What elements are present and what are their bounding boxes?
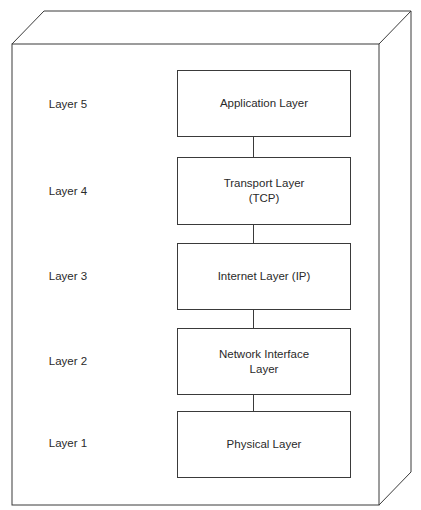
box-side-face [379, 11, 411, 505]
layer-label-2: Layer 2 [40, 354, 96, 368]
connector-3-2 [253, 309, 254, 328]
layer-label-5: Layer 5 [40, 97, 96, 111]
layer-name: Transport Layer [224, 176, 305, 191]
connector-5-4 [253, 136, 254, 157]
transport-layer-box: Transport Layer (TCP) [177, 157, 351, 225]
layer-name: Physical Layer [227, 437, 302, 452]
layer-name-line2: Layer [219, 362, 309, 377]
connector-2-1 [253, 394, 254, 411]
layer-name: Network Interface [219, 347, 309, 362]
network-interface-layer-box: Network Interface Layer [177, 328, 351, 395]
internet-layer-box: Internet Layer (IP) [177, 243, 351, 310]
layer-label-4: Layer 4 [40, 184, 96, 198]
layer-name: Internet Layer (IP) [218, 269, 311, 284]
physical-layer-box: Physical Layer [177, 411, 351, 478]
layer-label-1: Layer 1 [40, 436, 96, 450]
layer-name-line2: (TCP) [224, 191, 305, 206]
layer-label-3: Layer 3 [40, 269, 96, 283]
application-layer-box: Application Layer [177, 70, 351, 137]
connector-4-3 [253, 224, 254, 243]
layer-name: Application Layer [220, 96, 308, 111]
box-top-face [12, 11, 411, 44]
